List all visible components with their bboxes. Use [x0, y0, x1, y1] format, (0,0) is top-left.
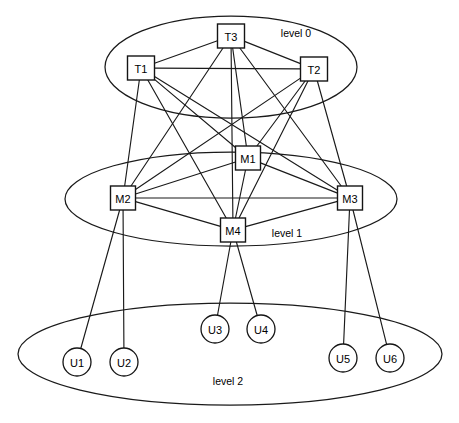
edge-m4-u4 [236, 242, 257, 316]
node-m1[interactable]: M1 [236, 146, 261, 170]
node-label-u3: U3 [208, 324, 222, 336]
node-u6[interactable]: U6 [376, 344, 404, 372]
edge-m3-m4 [246, 201, 338, 226]
edge-m2-u1 [81, 210, 120, 349]
node-label-u6: U6 [383, 353, 397, 365]
node-label-m3: M3 [342, 193, 357, 205]
node-label-u2: U2 [117, 357, 131, 369]
edge-t1-t2 [155, 68, 301, 69]
node-u4[interactable]: U4 [247, 315, 275, 343]
node-u2[interactable]: U2 [110, 348, 138, 376]
edge-t1-t3 [155, 41, 218, 63]
node-m2[interactable]: M2 [111, 186, 136, 210]
node-layer: T1T2T3M1M2M3M4U1U2U3U4U5U6 [63, 24, 404, 376]
network-diagram: T1T2T3M1M2M3M4U1U2U3U4U5U6 level 0level … [0, 0, 459, 423]
level-label-2: level 2 [213, 375, 244, 387]
node-t2[interactable]: T2 [301, 57, 328, 81]
node-label-u5: U5 [336, 353, 350, 365]
node-u5[interactable]: U5 [329, 344, 357, 372]
edge-m2-m4 [136, 202, 221, 227]
node-label-m1: M1 [240, 153, 255, 165]
edge-t3-m1 [233, 48, 247, 146]
node-label-m4: M4 [225, 225, 240, 237]
node-t3[interactable]: T3 [218, 24, 245, 48]
node-label-u4: U4 [254, 324, 268, 336]
level-label-0: level 0 [281, 27, 312, 39]
node-m3[interactable]: M3 [338, 186, 363, 210]
edge-m2-u2 [123, 210, 124, 348]
node-label-m2: M2 [115, 193, 130, 205]
edge-m3-u6 [353, 210, 387, 344]
edge-t3-m4 [231, 48, 233, 218]
node-label-t2: T2 [308, 64, 321, 76]
edge-t1-m4 [148, 80, 226, 218]
node-u1[interactable]: U1 [63, 348, 91, 376]
node-label-t3: T3 [225, 31, 238, 43]
edge-t2-m2 [136, 78, 301, 189]
edge-m4-u3 [218, 242, 231, 315]
node-m4[interactable]: M4 [221, 218, 246, 242]
edge-t2-t3 [245, 41, 301, 63]
edge-m1-m2 [136, 162, 236, 194]
edge-m1-m4 [236, 170, 246, 218]
network-diagram-canvas: T1T2T3M1M2M3M4U1U2U3U4U5U6 level 0level … [0, 0, 459, 423]
edge-t1-m3 [155, 76, 338, 190]
node-label-t1: T1 [135, 63, 148, 75]
edge-m1-m3 [261, 163, 338, 193]
edge-m3-u5 [344, 210, 350, 344]
node-u3[interactable]: U3 [201, 315, 229, 343]
level-label-1: level 1 [272, 227, 303, 239]
edge-t2-m3 [317, 81, 346, 186]
node-t1[interactable]: T1 [128, 56, 155, 80]
node-label-u1: U1 [70, 357, 84, 369]
